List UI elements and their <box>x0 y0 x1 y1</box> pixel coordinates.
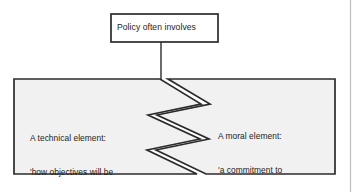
title-box-label: Policy often involves <box>117 22 213 33</box>
right-half-line-1: A moral element: <box>218 131 330 142</box>
right-half-line-2: 'a commitment to <box>218 165 330 176</box>
left-half-text: A technical element: 'how objectives wil… <box>30 110 138 192</box>
diagram-root: Policy often involves A technical elemen… <box>0 0 357 192</box>
left-half-line-1: A technical element: <box>30 133 138 144</box>
right-half-text: A moral element: 'a commitment to princi… <box>218 108 330 192</box>
left-half-line-2: 'how objectives will be <box>30 167 138 178</box>
